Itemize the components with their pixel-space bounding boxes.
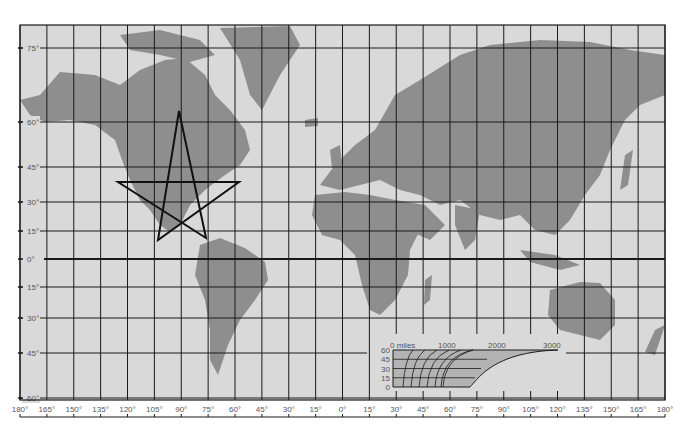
longitude-label: 165° xyxy=(39,405,56,414)
longitude-label: 45° xyxy=(256,405,268,414)
latitude-label: 60° xyxy=(27,118,39,127)
longitude-label: 180° xyxy=(12,405,29,414)
longitude-label: 90° xyxy=(175,405,187,414)
longitude-label: 120° xyxy=(119,405,136,414)
scale-lat-label: 0 xyxy=(386,383,391,392)
longitude-label: 45° xyxy=(417,405,429,414)
scale-distance-label: 0 miles xyxy=(390,341,415,350)
longitude-label: 75° xyxy=(471,405,483,414)
latitude-label: 15° xyxy=(27,283,39,292)
longitude-label: 60° xyxy=(229,405,241,414)
scale-lat-label: 15 xyxy=(381,374,390,383)
longitude-label: 150° xyxy=(65,405,82,414)
longitude-label: 30° xyxy=(283,405,295,414)
scale-lat-label: 45 xyxy=(381,355,390,364)
longitude-label: 135° xyxy=(92,405,109,414)
longitude-label: 75° xyxy=(202,405,214,414)
longitude-label: 60° xyxy=(444,405,456,414)
latitude-label: 45° xyxy=(27,163,39,172)
longitude-label: 135° xyxy=(576,405,593,414)
latitude-label: 30° xyxy=(27,198,39,207)
longitude-label: 15° xyxy=(310,405,322,414)
map-canvas: 180°165°150°135°120°105°90°75°60°45°30°1… xyxy=(0,0,682,433)
longitude-label: 90° xyxy=(498,405,510,414)
latitude-label: 30° xyxy=(27,314,39,323)
scale-lat-label: 60 xyxy=(381,346,390,355)
longitude-label: 165° xyxy=(630,405,647,414)
latitude-label: 75° xyxy=(27,44,39,53)
scale-lat-label: 30 xyxy=(381,365,390,374)
latitude-label: 15° xyxy=(27,227,39,236)
latitude-label: 0° xyxy=(27,255,35,264)
longitude-label: 150° xyxy=(603,405,620,414)
longitude-label: 180° xyxy=(657,405,674,414)
scale-distance-label: 1000 xyxy=(438,341,456,350)
longitude-label: 15° xyxy=(363,405,375,414)
latitude-label: 45° xyxy=(27,349,39,358)
longitude-label: 120° xyxy=(549,405,566,414)
longitude-label: 30° xyxy=(390,405,402,414)
longitude-label: 0° xyxy=(339,405,347,414)
world-map: 180°165°150°135°120°105°90°75°60°45°30°1… xyxy=(0,0,682,433)
scale-distance-label: 3000 xyxy=(543,341,561,350)
longitude-label: 105° xyxy=(146,405,163,414)
scale-distance-label: 2000 xyxy=(488,341,506,350)
latitude-label: 60° xyxy=(27,394,39,403)
longitude-label: 105° xyxy=(522,405,539,414)
